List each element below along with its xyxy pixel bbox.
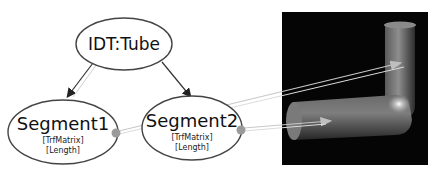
edge-root-to-seg1 [68,63,97,97]
node-title: Segment1 [17,113,109,134]
render-viewport [282,12,428,165]
edge-root-to-seg2 [162,62,190,96]
node-segment1[interactable]: Segment1 [TrfMatrix] [Length] [8,100,121,164]
node-idt-tube[interactable]: IDT:Tube [76,18,172,70]
node-segment2[interactable]: Segment2 [TrfMatrix] [Length] [142,96,246,160]
node-title: Segment2 [146,110,238,131]
port-icon[interactable] [112,129,121,138]
node-field: [TrfMatrix] [42,136,83,145]
port-icon[interactable] [237,126,246,135]
node-title: IDT:Tube [88,34,160,54]
node-field: [Length] [46,146,80,155]
node-field: [TrfMatrix] [171,133,212,142]
diagram-canvas: IDT:Tube Segment1 [TrfMatrix] [Length] S… [0,0,443,179]
node-field: [Length] [175,143,209,152]
